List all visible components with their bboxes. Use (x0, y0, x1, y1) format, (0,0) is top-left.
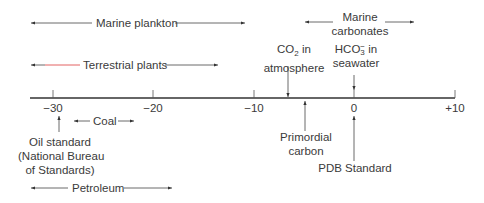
co2-line1: CO2 in (256, 42, 332, 61)
hco3-line1: HCO−3 in (328, 42, 384, 56)
tick-label-0: 0 (339, 101, 369, 115)
tick-label-minus10: −10 (239, 101, 269, 115)
pdb-standard-label: PDB Standard (314, 161, 396, 175)
co2-atmosphere-label: CO2 in atmosphere (256, 42, 332, 75)
marine-carbonates-line2: carbonates (325, 24, 395, 38)
petroleum-label: Petroleum (72, 181, 124, 195)
co2-line2: atmosphere (256, 61, 332, 75)
hco3-seawater-label: HCO−3 in seawater (328, 42, 384, 70)
marine-plankton-label: Marine plankton (96, 16, 178, 30)
marine-carbonates-label: Marine carbonates (325, 10, 395, 38)
tick-label-minus20: −20 (138, 101, 168, 115)
tick-label-plus10: +10 (438, 101, 472, 115)
primordial-carbon-label: Primordial carbon (276, 130, 336, 158)
terrestrial-plants-label: Terrestrial plants (83, 58, 167, 72)
marine-carbonates-line1: Marine (325, 10, 395, 24)
coal-label: Coal (93, 114, 117, 128)
hco3-line2: seawater (328, 56, 384, 70)
oil-standard-label: Oil standard (National Bureau of Standar… (18, 135, 102, 177)
tick-label-minus30: −30 (38, 101, 68, 115)
